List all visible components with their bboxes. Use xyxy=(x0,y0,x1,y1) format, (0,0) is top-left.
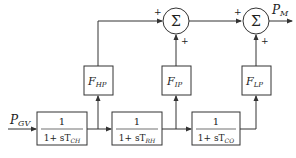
lag-rh-numerator: 1 xyxy=(134,116,140,127)
fhp-to-sum1-line xyxy=(98,21,162,66)
output-label: PM xyxy=(271,3,289,18)
sigma-icon: Σ xyxy=(171,13,181,29)
summing-junction-2: Σ + + xyxy=(234,7,269,46)
lag-block-co: 1 1+ sTCO xyxy=(192,112,240,145)
lag-block-rh: 1 1+ sTRH xyxy=(112,112,162,145)
sum1-sign-left: + xyxy=(154,7,162,17)
gain-block-hp: FHP xyxy=(84,66,113,95)
sum2-sign-bottom: + xyxy=(261,36,269,46)
lag-block-ch: 1 1+ sTCH xyxy=(37,112,87,145)
turbine-block-diagram: PGV PM 1 1+ sTCH 1 1+ sTRH 1 1+ sTCO FHP… xyxy=(0,0,296,158)
summing-junction-1: Σ + + xyxy=(154,7,189,46)
gain-block-lp: FLP xyxy=(242,66,271,95)
input-label: PGV xyxy=(9,113,31,128)
sum2-sign-left: + xyxy=(234,7,242,17)
gain-block-ip: FIP xyxy=(162,66,191,95)
sum1-sign-bottom: + xyxy=(181,36,189,46)
lag-ch-numerator: 1 xyxy=(59,116,65,127)
lag-co-numerator: 1 xyxy=(213,116,219,127)
sigma-icon: Σ xyxy=(251,13,261,29)
co-to-flp-line xyxy=(240,96,256,129)
